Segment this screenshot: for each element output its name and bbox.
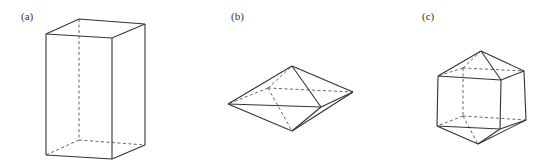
elongated-octahedron-shape <box>437 51 526 144</box>
cuboid-shape <box>46 19 145 159</box>
polyhedra-diagram <box>0 0 545 163</box>
octahedron-shape <box>228 66 353 131</box>
